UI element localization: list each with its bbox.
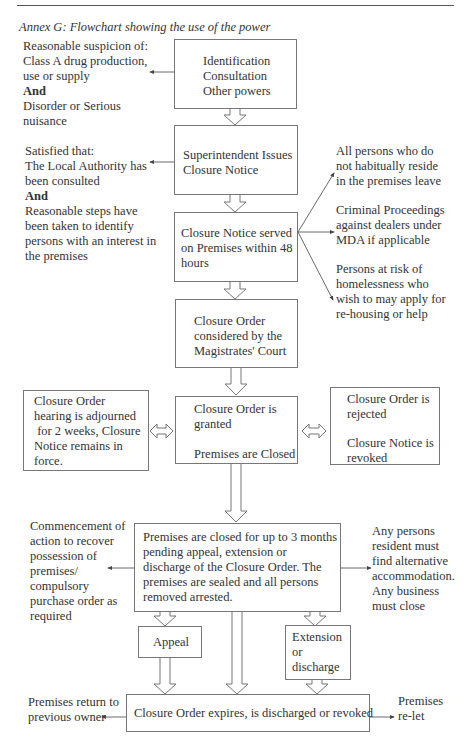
note-text: Any business [372, 584, 455, 599]
down-arrow-icon [154, 657, 176, 694]
box-text: Closure Order is [347, 392, 439, 407]
box-text: Superintendent Issues [183, 148, 297, 163]
box-text: Closure Order expires, is discharged or … [134, 706, 369, 721]
box-text: premises are sealed and all persons [143, 575, 340, 590]
extension-box: Extension or discharge [285, 625, 351, 680]
box-text: Extension [292, 630, 350, 645]
box-text: Identification [203, 54, 296, 69]
box-text: Closure Order [34, 394, 148, 409]
note-text: purchase order as [30, 594, 125, 609]
note-text: Class A drug production, [23, 54, 148, 69]
box-text: for 2 weeks, Closure [34, 424, 148, 439]
box-text: on Premises within 48 [181, 241, 297, 256]
note-text: Criminal Proceedings [336, 203, 445, 218]
note-text: against dealers under [336, 218, 445, 233]
note-text: not habitually reside [336, 159, 441, 174]
header-rule [17, 5, 454, 6]
note-text: wish to may apply for [336, 292, 446, 307]
note-text: compulsory [30, 579, 125, 594]
box-text: revoked [347, 451, 439, 466]
note-text: persons with an interest in [25, 234, 156, 249]
suspicion-note: Reasonable suspicion of: Class A drug pr… [23, 39, 148, 129]
note-text: possession of [30, 549, 125, 564]
note-text: the premises [25, 249, 156, 264]
note-text: been consulted [25, 174, 156, 189]
note-text: re-let [398, 709, 443, 724]
note-text: Premises [398, 694, 443, 709]
box-text: Other powers [203, 84, 296, 99]
box-text: granted [194, 417, 297, 432]
recover-possession-note: Commencement of action to recover posses… [30, 519, 125, 624]
note-text: Commencement of [30, 519, 125, 534]
note-text: Premises return to [28, 695, 119, 710]
note-text: re-housing or help [336, 307, 446, 322]
box-text: discharge of the Closure Order. The [143, 560, 340, 575]
note-connector: And [23, 84, 148, 99]
court-box: Closure Order considered by the Magistra… [175, 299, 298, 368]
down-arrow-icon [304, 611, 326, 626]
box-text: Closure Order [194, 314, 297, 329]
rejected-box: Closure Order is rejected Closure Notice… [330, 387, 440, 465]
note-text: Satisfied that: [25, 144, 156, 159]
note-text: nuisance [23, 114, 148, 129]
box-text: hearing is adjourned [34, 409, 148, 424]
box-text: discharge [292, 660, 350, 675]
box-text: Consultation [203, 69, 296, 84]
down-arrow-icon [224, 281, 246, 299]
box-text: force. [34, 454, 148, 469]
note-text: action to recover [30, 534, 125, 549]
box-text: hours [181, 256, 297, 271]
box-text: Appeal [153, 635, 201, 650]
note-text: premises/ [30, 564, 125, 579]
note-text: been taken to identify [25, 219, 156, 234]
homelessness-note: Persons at risk of homelessness who wish… [336, 262, 446, 322]
down-arrow-icon [225, 463, 247, 522]
note-text: must close [372, 599, 455, 614]
note-text: resident must [372, 539, 455, 554]
box-text: Magistrates' Court [194, 344, 297, 359]
order-expires-box: Closure Order expires, is discharged or … [126, 694, 370, 732]
box-text: Premises are closed for up to 3 months [143, 530, 340, 545]
order-granted-box: Closure Order is granted Premises are Cl… [175, 396, 298, 464]
return-owner-note: Premises return to previous owner [28, 695, 119, 725]
box-text: considered by the [194, 329, 297, 344]
note-text: use or supply [23, 69, 148, 84]
identification-box: Identification Consultation Other powers [174, 39, 297, 109]
box-text: removed arrested. [143, 590, 340, 605]
box-text: Closure Notice is [347, 436, 439, 451]
note-text: Persons at risk of [336, 262, 446, 277]
box-text: Closure Notice [183, 163, 297, 178]
double-arrow-icon [150, 424, 173, 438]
box-text: rejected [347, 407, 439, 422]
notice-served-box: Closure Notice served on Premises within… [174, 212, 298, 282]
note-text: Reasonable steps have [25, 204, 156, 219]
box-text: Notice remains in [34, 439, 148, 454]
satisfied-note: Satisfied that: The Local Authority has … [25, 144, 156, 264]
down-arrow-icon [226, 611, 248, 694]
relet-note: Premises re-let [398, 694, 443, 724]
box-text: Closure Order is [194, 402, 297, 417]
adjourned-box: Closure Order hearing is adjourned for 2… [23, 390, 149, 471]
note-text: homelessness who [336, 277, 446, 292]
down-arrow-icon [224, 194, 246, 212]
note-text: All persons who do [336, 144, 441, 159]
note-connector: And [25, 189, 156, 204]
box-text: Premises are Closed [194, 447, 297, 462]
box-text: Closure Notice served [181, 226, 297, 241]
note-text: Reasonable suspicion of: [23, 39, 148, 54]
residents-note: Any persons resident must find alternati… [372, 524, 455, 614]
note-text: Disorder or Serious [23, 99, 148, 114]
figure-caption: Annex G: Flowchart showing the use of th… [19, 20, 270, 35]
criminal-proceedings-note: Criminal Proceedings against dealers und… [336, 203, 445, 248]
superintendent-box: Superintendent Issues Closure Notice [174, 125, 298, 195]
note-text: The Local Authority has [25, 159, 156, 174]
box-text: pending appeal, extension or [143, 545, 340, 560]
persons-leave-note: All persons who do not habitually reside… [336, 144, 441, 189]
note-text: Any persons [372, 524, 455, 539]
down-arrow-icon [306, 679, 328, 694]
note-text: find alternative [372, 554, 455, 569]
note-text: required [30, 609, 125, 624]
note-text: previous owner [28, 710, 119, 725]
premises-closed-box: Premises are closed for up to 3 months p… [134, 523, 341, 612]
down-arrow-icon [225, 367, 247, 395]
